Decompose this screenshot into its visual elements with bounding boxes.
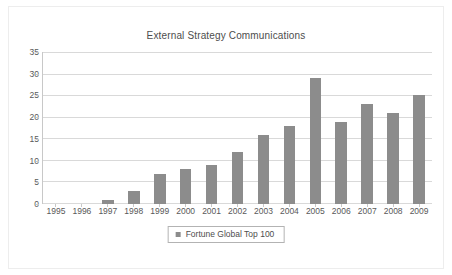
y-axis-tick-mark [36, 74, 39, 75]
y-axis-tick-label: 5 [5, 177, 39, 187]
x-axis: 1995199619971998199920002001200220032004… [43, 206, 432, 216]
bar [310, 78, 322, 204]
bar-series [43, 52, 432, 204]
x-axis-tick-label: 1999 [147, 206, 173, 216]
bar-slot [302, 52, 328, 204]
bar [232, 152, 244, 204]
x-axis-tick-label: 1997 [95, 206, 121, 216]
y-axis-tick-mark [36, 204, 39, 205]
bar [154, 174, 166, 204]
chart-title: External Strategy Communications [0, 30, 452, 41]
chart-legend: Fortune Global Top 100 [168, 226, 285, 243]
bar-slot [69, 52, 95, 204]
bar-slot [173, 52, 199, 204]
bar [180, 169, 192, 204]
x-axis-tick-label: 2003 [251, 206, 277, 216]
bar-slot [354, 52, 380, 204]
x-axis-tick-label: 2008 [380, 206, 406, 216]
bar-slot [276, 52, 302, 204]
bar [258, 135, 270, 204]
y-axis: 05101520253035 [0, 52, 39, 204]
y-axis-tick-mark [36, 182, 39, 183]
y-axis-tick-mark [36, 117, 39, 118]
x-axis-tick-label: 2006 [328, 206, 354, 216]
y-axis-tick-label: 15 [5, 134, 39, 144]
chart-figure: External Strategy Communications 0510152… [0, 0, 452, 275]
bar-slot [147, 52, 173, 204]
y-axis-tick-mark [36, 139, 39, 140]
x-axis-tick-label: 2002 [225, 206, 251, 216]
x-axis-tick-label: 2005 [302, 206, 328, 216]
y-axis-tick-mark [36, 52, 39, 53]
legend-square-marker-icon [176, 232, 181, 237]
x-axis-tick-label: 1995 [43, 206, 69, 216]
bar-slot [225, 52, 251, 204]
bar [335, 122, 347, 205]
bar-slot [406, 52, 432, 204]
bar-slot [199, 52, 225, 204]
x-axis-tick-label: 1996 [69, 206, 95, 216]
bar-slot [380, 52, 406, 204]
x-axis-tick-label: 2001 [199, 206, 225, 216]
y-axis-tick-mark [36, 161, 39, 162]
bar-slot [43, 52, 69, 204]
y-axis-tick-label: 10 [5, 156, 39, 166]
x-axis-tick-label: 2007 [354, 206, 380, 216]
y-axis-tick-label: 0 [5, 199, 39, 209]
x-axis-tick-label: 2004 [276, 206, 302, 216]
bar-slot [251, 52, 277, 204]
x-axis-tick-label: 2000 [173, 206, 199, 216]
bar [361, 104, 373, 204]
y-axis-tick-label: 35 [5, 47, 39, 57]
x-axis-tick-label: 2009 [406, 206, 432, 216]
bar [206, 165, 218, 204]
bar [413, 95, 425, 204]
bar [284, 126, 296, 204]
x-axis-tick-label: 1998 [121, 206, 147, 216]
bar [128, 191, 140, 204]
y-axis-tick-label: 25 [5, 90, 39, 100]
bar [387, 113, 399, 204]
y-axis-tick-label: 20 [5, 112, 39, 122]
bar-slot [328, 52, 354, 204]
legend-label: Fortune Global Top 100 [186, 229, 275, 239]
y-axis-tick-label: 30 [5, 69, 39, 79]
y-axis-tick-mark [36, 95, 39, 96]
bar-slot [121, 52, 147, 204]
bar-slot [95, 52, 121, 204]
